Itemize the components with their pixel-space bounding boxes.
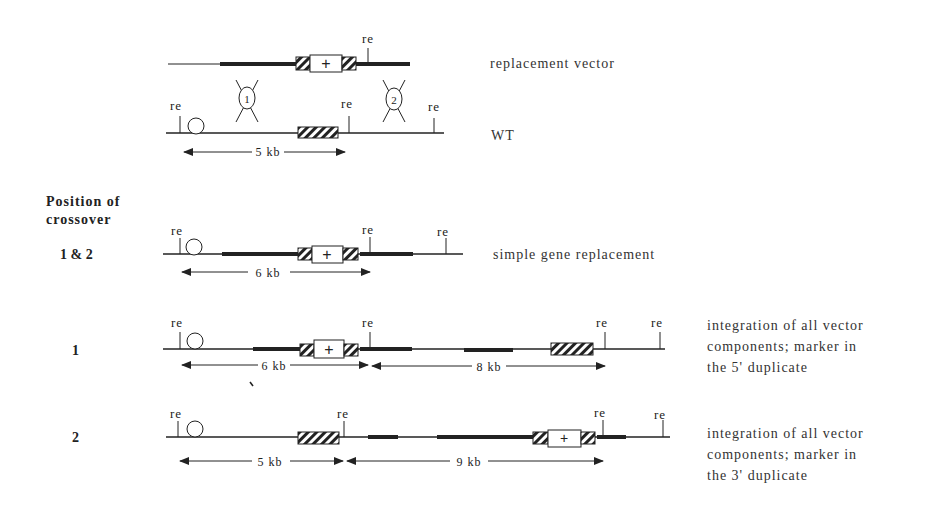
target-gene-hatched-block <box>298 127 338 138</box>
position-2-locus: + re re re re 5 kb 9 kb <box>166 405 670 469</box>
svg-text:re: re <box>437 224 449 239</box>
svg-text:re: re <box>428 99 440 114</box>
svg-text:8 kb: 8 kb <box>477 360 502 374</box>
svg-text:9 kb: 9 kb <box>457 455 482 469</box>
svg-text:re: re <box>651 315 663 330</box>
svg-text:re: re <box>362 315 374 330</box>
svg-text:5 kb: 5 kb <box>258 455 283 469</box>
svg-text:re: re <box>337 406 349 421</box>
row-label-wt: WT <box>491 128 515 143</box>
svg-text:+: + <box>560 430 568 446</box>
crossover-mark-2: 2 <box>383 80 405 122</box>
crossover-mark-1: 1 <box>236 80 258 122</box>
svg-text:re: re <box>170 406 182 421</box>
row-label-replacement-vector: replacement vector <box>490 56 615 71</box>
row-label-position-1-line2: components; marker in <box>707 339 857 354</box>
homology-hatched-block <box>342 57 356 70</box>
section-heading-line1: Position of <box>46 194 120 209</box>
restriction-site-label: re <box>362 31 374 46</box>
svg-text:re: re <box>594 405 606 420</box>
marker-plus: + <box>321 55 330 72</box>
crossover-position-2: 2 <box>72 430 79 445</box>
svg-text:re: re <box>170 98 182 113</box>
crossover-position-1: 1 <box>72 343 79 358</box>
svg-text:6 kb: 6 kb <box>256 266 281 280</box>
svg-text:+: + <box>322 246 331 263</box>
row-label-position-2-line2: components; marker in <box>707 447 857 462</box>
svg-text:+: + <box>324 341 333 358</box>
svg-text:re: re <box>341 96 353 111</box>
svg-text:re: re <box>362 222 374 237</box>
wt-locus: re re re 5 kb <box>166 96 444 159</box>
svg-text:re: re <box>171 223 183 238</box>
row-label-position-2-line3: the 3' duplicate <box>707 468 808 483</box>
svg-text:re: re <box>596 315 608 330</box>
row-label-simple-gene-replacement: simple gene replacement <box>493 247 655 262</box>
section-heading-line2: crossover <box>46 212 112 227</box>
svg-text:re: re <box>171 315 183 330</box>
gene-replacement-diagram: + re replacement vector 1 2 re re re 5 k… <box>0 0 943 505</box>
origin-circle <box>188 118 204 134</box>
row-label-position-1-line1: integration of all vector <box>707 318 864 333</box>
svg-text:re: re <box>654 407 666 422</box>
svg-text:1: 1 <box>244 93 250 105</box>
homology-hatched-block <box>296 57 310 70</box>
row-label-position-1-line3: the 5' duplicate <box>707 360 808 375</box>
position-1-locus: + re re re re 6 kb 8 kb <box>163 315 665 386</box>
crossover-position-1-and-2: 1 & 2 <box>60 247 93 262</box>
distance-label: 5 kb <box>256 145 281 159</box>
svg-text:2: 2 <box>391 94 397 106</box>
simple-replacement-locus: + re re re 6 kb <box>163 222 463 280</box>
svg-text:6 kb: 6 kb <box>262 359 287 373</box>
row-label-position-2-line1: integration of all vector <box>707 426 864 441</box>
replacement-vector-construct: + re <box>168 31 410 72</box>
